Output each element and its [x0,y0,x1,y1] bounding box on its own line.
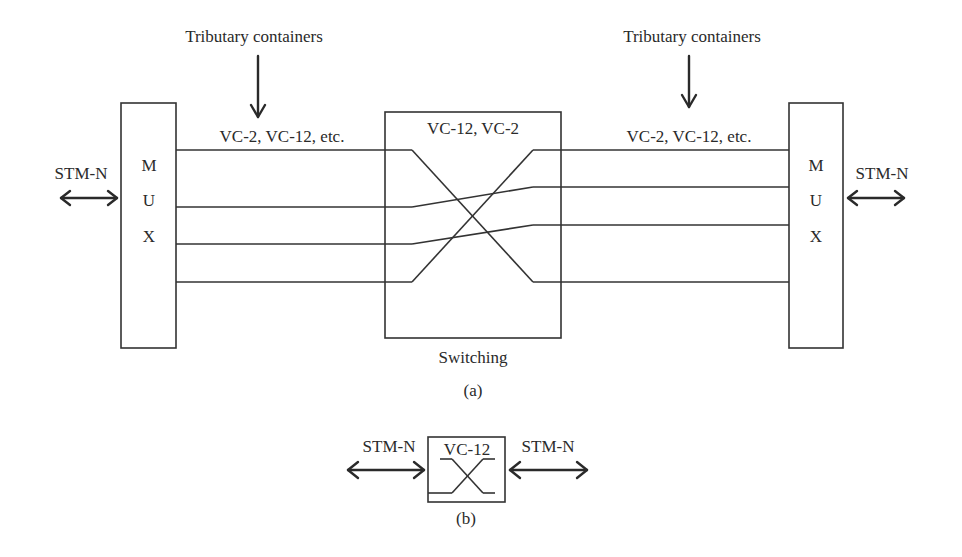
switch-cross-connections [412,150,533,282]
left-mux-letter-x: X [143,227,155,246]
sdh-cross-connect-diagram: Tributary containers Tributary container… [0,0,962,557]
right-mux-box [789,103,843,348]
left-link-label: VC-2, VC-12, etc. [220,127,345,146]
left-tributary-label: Tributary containers [185,27,323,46]
left-tributary-lines [176,150,412,282]
bidirectional-arrow-icon [348,462,424,478]
down-arrow-icon [251,56,265,117]
bidirectional-arrow-icon [61,191,117,205]
right-stm-label: STM-N [856,164,909,183]
left-mux-letter-u: U [143,191,155,210]
b-box-label: VC-12 [444,440,490,459]
right-tributary-lines [533,150,789,282]
left-stm-label: STM-N [55,164,108,183]
right-mux-letter-m: M [808,156,823,175]
down-arrow-icon [682,56,696,107]
left-mux-letter-m: M [141,156,156,175]
right-mux-letter-u: U [810,191,822,210]
b-right-stm-label: STM-N [522,437,575,456]
right-mux-letter-x: X [810,227,822,246]
figure-caption-b: (b) [456,509,476,528]
b-left-stm-label: STM-N [363,437,416,456]
bidirectional-arrow-icon [510,462,587,478]
bidirectional-arrow-icon [848,191,904,205]
figure-caption-a: (a) [464,381,483,400]
switching-caption: Switching [439,348,508,367]
switch-inner-label: VC-12, VC-2 [427,119,519,138]
right-tributary-label: Tributary containers [623,27,761,46]
left-mux-box [121,103,176,348]
right-link-label: VC-2, VC-12, etc. [627,127,752,146]
